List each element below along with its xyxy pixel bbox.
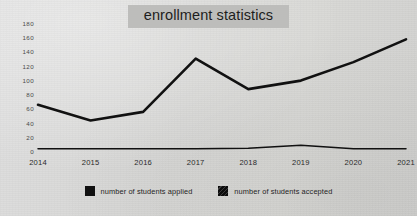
x-axis-tick-label: 2020 — [345, 158, 363, 167]
x-axis-labels: 20142015201620172018201920202021 — [38, 158, 406, 172]
legend-swatch-icon — [85, 186, 95, 196]
y-axis-tick-label: 140 — [22, 48, 34, 55]
x-axis-tick-label: 2019 — [292, 158, 310, 167]
plot-svg — [38, 23, 406, 151]
legend-item-label: number of students applied — [101, 187, 193, 196]
legend-item-label: number of students accepted — [234, 187, 332, 196]
x-axis-tick-label: 2017 — [187, 158, 205, 167]
legend-swatch-icon — [218, 186, 228, 196]
legend-item-accepted[interactable]: number of students accepted — [218, 186, 332, 196]
chart-container: enrollment statistics 020406080100120140… — [0, 0, 417, 216]
x-axis-tick-label: 2016 — [134, 158, 152, 167]
y-axis-tick-label: 60 — [26, 105, 34, 112]
y-axis-tick-label: 100 — [22, 76, 34, 83]
y-axis-tick-label: 120 — [22, 62, 34, 69]
data-series-line — [38, 145, 406, 149]
plot-area — [38, 23, 406, 151]
data-series-line — [38, 39, 406, 120]
page-title: enrollment statistics — [128, 5, 289, 28]
y-axis-tick-label: 20 — [26, 133, 34, 140]
x-axis-tick-label: 2018 — [239, 158, 257, 167]
y-axis-tick-label: 80 — [26, 91, 34, 98]
series-group — [38, 39, 406, 149]
x-axis-tick-label: 2015 — [82, 158, 100, 167]
x-axis-tick-label: 2014 — [29, 158, 47, 167]
x-axis-tick-label: 2021 — [397, 158, 415, 167]
chart-title-area: enrollment statistics — [0, 5, 417, 28]
y-axis-tick-label: 160 — [22, 34, 34, 41]
chart-legend: number of students applied number of stu… — [0, 186, 417, 196]
y-axis-labels: 020406080100120140160180 — [0, 23, 34, 151]
legend-item-applied[interactable]: number of students applied — [85, 186, 193, 196]
y-axis-tick-label: 0 — [30, 148, 34, 155]
y-axis-tick-label: 40 — [26, 119, 34, 126]
